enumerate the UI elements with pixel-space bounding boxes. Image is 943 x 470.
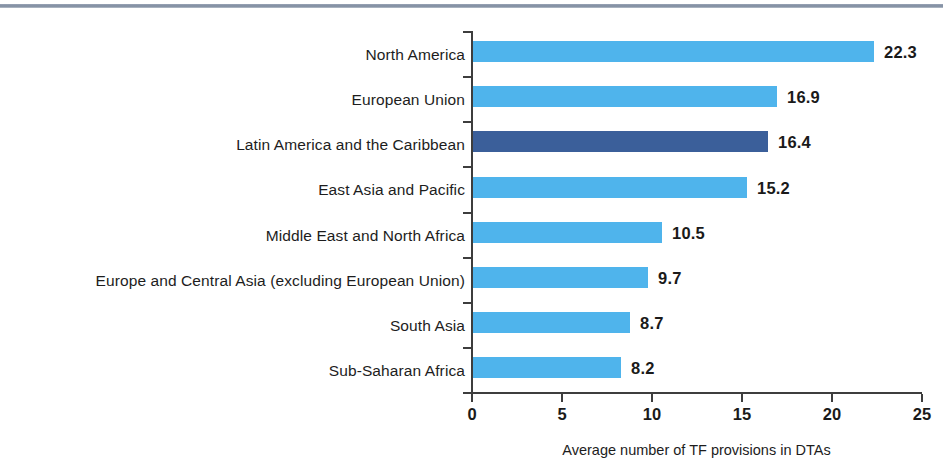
x-axis-tick [741,394,743,402]
x-tick-label-20: 20 [823,406,841,423]
y-axis-tick [463,166,472,168]
bar-value-east-asia-and-pacific: 15.2 [757,180,790,197]
x-tick-label-15: 15 [733,406,751,423]
y-axis-tick [463,31,472,33]
y-axis-tick [463,212,472,214]
x-axis-tick [561,394,563,402]
y-axis-tick [463,347,472,349]
bar-value-europe-and-central-asia: 9.7 [658,270,682,287]
y-axis-tick [463,257,472,259]
x-tick-label-0: 0 [467,406,476,423]
category-label-european-union: European Union [352,92,465,108]
bar-value-sub-saharan-africa: 8.2 [631,360,655,377]
category-label-north-america: North America [366,47,466,63]
bar-sub-saharan-africa [473,357,621,378]
category-label-east-asia-and-pacific: East Asia and Pacific [318,182,465,198]
bar-south-asia [473,312,630,333]
bar-middle-east-and-north-africa [473,222,662,243]
category-label-latin-america-and-the-caribbean: Latin America and the Caribbean [236,137,465,153]
bar-value-middle-east-and-north-africa: 10.5 [672,225,705,242]
x-axis-tick [651,394,653,402]
category-label-sub-saharan-africa: Sub-Saharan Africa [329,363,465,379]
bar-east-asia-and-pacific [473,177,747,198]
y-axis-tick [463,76,472,78]
bar-chart-plot-area: North America European Union Latin Ameri… [0,0,943,470]
bar-europe-and-central-asia [473,267,648,288]
bar-value-south-asia: 8.7 [640,315,664,332]
category-label-middle-east-and-north-africa: Middle East and North Africa [266,228,465,244]
bar-european-union [473,86,777,107]
y-axis-tick [463,121,472,123]
bar-value-north-america: 22.3 [884,44,917,61]
category-label-europe-and-central-asia: Europe and Central Asia (excluding Europ… [96,273,465,289]
x-axis-tick [831,394,833,402]
x-tick-label-25: 25 [913,406,931,423]
y-axis-tick [463,302,472,304]
x-tick-label-5: 5 [557,406,566,423]
bar-value-european-union: 16.9 [787,89,820,106]
x-axis-line [471,392,922,394]
bar-north-america [473,41,874,62]
x-tick-label-10: 10 [643,406,661,423]
chart-figure: North America European Union Latin Ameri… [0,0,943,470]
category-label-south-asia: South Asia [390,318,465,334]
bar-value-latin-america-and-the-caribbean: 16.4 [778,134,811,151]
x-axis-title: Average number of TF provisions in DTAs [471,443,922,458]
bar-latin-america-and-the-caribbean [473,131,768,152]
x-axis-tick [921,394,923,402]
x-axis-tick [471,394,473,402]
